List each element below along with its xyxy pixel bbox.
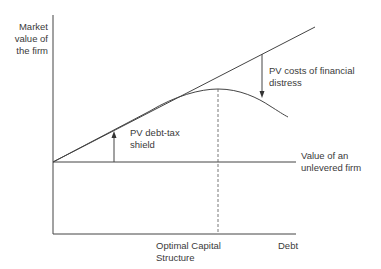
y-axis-label: Market value of the firm (0, 21, 48, 57)
optimal-label: Optimal Capital Structure (156, 240, 221, 264)
arrow-down-icon (260, 91, 265, 98)
optimal-label-line1: Optimal Capital (156, 240, 221, 252)
distress-label: PV costs of financial distress (269, 65, 355, 89)
tax-shield-label-line2: shield (130, 139, 180, 151)
unlevered-label: Value of an unlevered firm (301, 150, 361, 174)
x-axis-label: Debt (278, 240, 298, 252)
y-axis-label-line2: value of (0, 33, 48, 45)
y-axis-label-line1: Market (0, 21, 48, 33)
unlevered-label-line2: unlevered firm (301, 162, 361, 174)
optimal-label-line2: Structure (156, 252, 221, 264)
distress-label-line1: PV costs of financial (269, 65, 355, 77)
firm-value-curve (53, 89, 288, 162)
tax-shield-label-line1: PV debt-tax (130, 127, 180, 139)
arrow-up-icon (112, 131, 117, 138)
tradeoff-diagram (0, 0, 381, 269)
tax-shield-label: PV debt-tax shield (130, 127, 180, 151)
y-axis-label-line3: the firm (0, 45, 48, 57)
distress-label-line2: distress (269, 77, 355, 89)
unlevered-label-line1: Value of an (301, 150, 361, 162)
